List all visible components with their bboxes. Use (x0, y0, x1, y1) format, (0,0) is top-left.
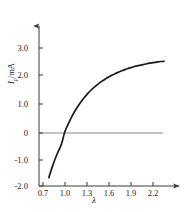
ytick-label: 1.0 (6, 100, 28, 109)
xtick-label: 2.2 (142, 189, 164, 198)
ytick-label: -1.0 (3, 156, 28, 165)
y-axis-title-subscript: p (12, 78, 18, 81)
y-axis-title-symbol: I (6, 81, 16, 84)
y-axis-ticks (39, 48, 43, 186)
xtick-label: 0.7 (32, 189, 54, 198)
data-curve (49, 61, 164, 177)
x-axis-ticks (43, 182, 153, 186)
plot-area (0, 0, 188, 212)
xtick-label: 1.0 (54, 189, 76, 198)
x-axis-title: λ (80, 195, 108, 205)
ytick-label: -2.0 (3, 182, 28, 191)
ytick-label: 3.0 (6, 44, 28, 53)
ytick-label: 0 (6, 129, 28, 138)
y-axis-title-unit: /mA (6, 63, 16, 78)
y-axis-title: Ip/mA (6, 63, 18, 84)
chart-figure: 3.0 2.0 1.0 0 -1.0 -2.0 0.7 1.0 1.3 1.6 … (0, 0, 188, 212)
xtick-label: 1.9 (120, 189, 142, 198)
